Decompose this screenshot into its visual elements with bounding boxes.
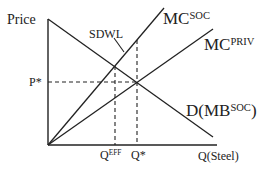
x-axis-label: Q(Steel) <box>198 150 239 162</box>
mc-social-base: MC <box>163 9 189 28</box>
mc-private-sup: PRIV <box>230 36 254 47</box>
q-eff-base: Q <box>100 148 109 162</box>
mc-social-sup: SOC <box>189 10 210 21</box>
demand-suffix: ) <box>251 101 257 120</box>
externality-diagram: Price P* SDWL MCSOC MCPRIV D(MBSOC) QEFF… <box>0 0 272 169</box>
demand-label: D(MBSOC) <box>186 102 257 119</box>
demand-base: D(MB <box>186 101 230 120</box>
q-eff-label: QEFF <box>100 149 122 161</box>
mc-private-label: MCPRIV <box>204 36 254 53</box>
mc-private-base: MC <box>204 35 230 54</box>
sdwl-label: SDWL <box>89 28 123 40</box>
y-axis-label: Price <box>7 13 36 27</box>
price-star-label: P* <box>29 76 42 88</box>
q-star-label: Q* <box>131 149 146 161</box>
q-eff-sup: EFF <box>109 148 122 157</box>
mc-social-label: MCSOC <box>163 10 210 27</box>
demand-sup: SOC <box>230 102 251 113</box>
mc-private-curve <box>48 29 213 145</box>
